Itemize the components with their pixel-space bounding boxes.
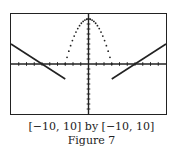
parabola-dot bbox=[98, 28, 100, 30]
parabola-dot bbox=[95, 22, 97, 24]
window-caption: [−10, 10] by [−10, 10] bbox=[0, 121, 183, 133]
parabola-dot bbox=[93, 20, 95, 22]
parabola-dot bbox=[89, 18, 91, 20]
parabola-dot bbox=[80, 22, 82, 24]
piecewise-left-line bbox=[11, 44, 65, 79]
parabola-dot bbox=[64, 63, 66, 65]
parabola-dot bbox=[105, 45, 107, 47]
piecewise-right-line bbox=[112, 44, 166, 79]
parabola-dot bbox=[107, 50, 109, 52]
parabola-dot bbox=[111, 63, 113, 65]
parabola-dot bbox=[97, 25, 99, 27]
parabola-dot bbox=[73, 35, 75, 37]
parabola-dot bbox=[77, 28, 79, 30]
parabola-dot bbox=[91, 19, 93, 21]
parabola-dot bbox=[70, 45, 72, 47]
parabola-dot bbox=[104, 40, 106, 42]
parabola-dot bbox=[82, 20, 84, 22]
axes bbox=[11, 14, 166, 114]
figure-label: Figure 7 bbox=[0, 135, 183, 147]
parabola-dot bbox=[66, 56, 68, 58]
parabola-dot bbox=[86, 18, 88, 20]
parabola-dot bbox=[100, 31, 102, 33]
parabola-dot bbox=[102, 35, 104, 37]
parabola-dot bbox=[84, 19, 86, 21]
parabola-dot bbox=[109, 56, 111, 58]
parabola-dot bbox=[79, 25, 81, 27]
parabola-dot bbox=[72, 40, 74, 42]
parabola-dot bbox=[88, 18, 90, 20]
parabola-dot bbox=[75, 31, 77, 33]
parabola-dot bbox=[68, 50, 70, 52]
